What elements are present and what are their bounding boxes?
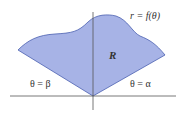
right-ray-label: θ = α xyxy=(130,78,151,89)
curve-label: r = f(θ) xyxy=(130,10,160,21)
region-label: R xyxy=(109,49,116,61)
left-ray-label: θ = β xyxy=(30,78,51,89)
